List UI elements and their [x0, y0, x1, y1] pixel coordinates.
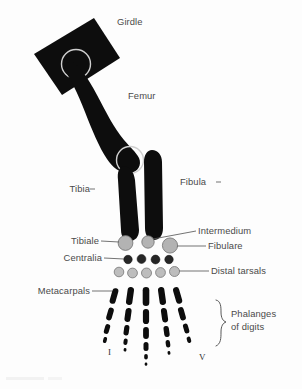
- distal-tarsal-4: [156, 268, 166, 278]
- tarsal-tibiale: [118, 236, 133, 251]
- phalanx-3-3: [144, 342, 149, 351]
- label-fibula: Fibula: [180, 176, 207, 187]
- distal-tarsal-5: [170, 267, 180, 277]
- label-metacarpals: Metacarpals: [38, 285, 90, 296]
- centrale-1: [124, 255, 132, 263]
- label-tibiale: Tibiale: [71, 235, 99, 246]
- label-intermedium: Intermedium: [198, 225, 251, 236]
- hindlimb-diagram: Girdle Femur Tibia Fibula Tibiale Interm…: [0, 0, 302, 389]
- label-femur: Femur: [128, 90, 156, 101]
- phalanx-3-2: [143, 327, 149, 339]
- phalanx-3-5: [145, 363, 148, 366]
- phalanx-3-4: [144, 354, 148, 360]
- label-fibulare: Fibulare: [208, 240, 243, 251]
- centrale-2: [137, 255, 146, 264]
- distal-tarsal-1: [114, 267, 124, 277]
- tarsal-intermedium: [142, 236, 154, 248]
- label-phalanges-line1: Phalanges: [231, 308, 276, 319]
- label-tibia: Tibia: [70, 183, 91, 194]
- scan-artifact: [6, 377, 62, 380]
- label-phalanges-line2: of digits: [231, 321, 264, 332]
- figure-container: Girdle Femur Tibia Fibula Tibiale Interm…: [0, 0, 302, 389]
- label-digit-first: I: [108, 347, 111, 357]
- fibula-bone: [144, 150, 163, 240]
- label-centralia: Centralia: [64, 252, 103, 263]
- centrale-4: [165, 255, 173, 263]
- metacarpal-3: [143, 287, 150, 306]
- label-distal-tarsals: Distal tarsals: [211, 265, 266, 276]
- label-girdle: Girdle: [117, 16, 143, 27]
- centrale-3: [151, 255, 160, 264]
- phalanx-3-1: [143, 309, 149, 324]
- label-digit-fifth: V: [199, 352, 206, 362]
- distal-tarsal-2: [128, 268, 138, 278]
- tarsal-fibulare: [162, 238, 177, 253]
- distal-tarsal-3: [142, 268, 152, 278]
